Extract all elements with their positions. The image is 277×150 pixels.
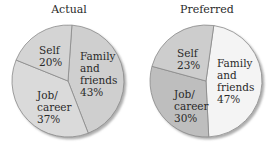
preferred-family-label: Familyandfriends47% — [217, 57, 254, 105]
preferred-title: Preferred — [147, 3, 267, 16]
preferred-job-label: Job/career30% — [174, 88, 209, 124]
preferred-self-label: Self23% — [177, 47, 200, 71]
actual-self-label: Self20% — [39, 44, 62, 68]
actual-title: Actual — [9, 3, 129, 16]
actual-job-label: Job/career37% — [37, 89, 72, 125]
actual-family-label: Familyandfriends43% — [80, 50, 117, 98]
